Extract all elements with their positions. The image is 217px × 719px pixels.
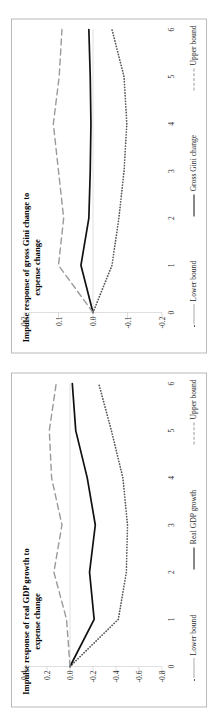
x-tick-label: 5 (167, 74, 176, 78)
y-tick-label: 0.2 (42, 670, 51, 680)
chart-gdp: Impulse response of real GDP growth to e… (0, 372, 217, 707)
x-tick-label: 5 (167, 428, 176, 432)
figure-panel: Impulse response of gross Gini change to… (0, 0, 217, 719)
x-tick-label: 3 (167, 523, 176, 527)
y-tick-label: -0.6 (134, 670, 143, 682)
series-line (70, 383, 128, 666)
legend-label: Lower bound (189, 260, 198, 301)
y-tick-label: 0.1 (54, 316, 63, 326)
legend-item: Gross Gini change (189, 134, 198, 216)
legend-dashed-line-icon (190, 68, 196, 90)
legend-solid-line-icon (190, 547, 196, 569)
chart-gini-frame: Impulse response of gross Gini change to… (11, 18, 207, 353)
x-tick-label: 4 (167, 475, 176, 479)
legend-item: Upper bound (189, 25, 198, 90)
legend-label: Gross Gini change (189, 134, 198, 191)
legend-label: Upper bound (189, 25, 198, 65)
x-tick-label: 3 (167, 169, 176, 173)
chart-gdp-legend: Lower boundReal GDP growthUpper bound (189, 379, 198, 680)
series-line (80, 29, 92, 312)
y-tick-label: -0.8 (157, 670, 166, 682)
y-tick-label: -0.1 (123, 316, 132, 328)
legend-dashed-line-icon (190, 422, 196, 444)
series-line (49, 383, 70, 666)
series-line (53, 29, 93, 312)
x-tick-label: 4 (167, 121, 176, 125)
y-tick-label: -0.2 (88, 670, 97, 682)
x-tick-label: 2 (167, 216, 176, 220)
x-tick-label: 0 (167, 664, 176, 668)
y-tick-label: 0.0 (65, 670, 74, 680)
chart-line-canvas (24, 29, 162, 312)
y-tick-label: -0.2 (157, 316, 166, 328)
x-tick-label: 2 (167, 570, 176, 574)
series-line (70, 383, 95, 666)
legend-item: Lower bound (189, 260, 198, 326)
y-tick-label: 0.0 (88, 316, 97, 326)
chart-gini: Impulse response of gross Gini change to… (0, 18, 217, 353)
chart-gini-legend: Lower boundGross Gini changeUpper bound (189, 25, 198, 326)
legend-dotted-line-icon (190, 658, 196, 680)
y-tick-label: 0.2 (19, 316, 28, 326)
legend-item: Lower bound (189, 614, 198, 680)
x-tick-label: 0 (167, 310, 176, 314)
legend-solid-line-icon (190, 194, 196, 216)
legend-label: Upper bound (189, 379, 198, 419)
chart-gdp-frame: Impulse response of real GDP growth to e… (11, 372, 207, 707)
series-line (93, 29, 127, 312)
chart-line-canvas (24, 383, 162, 666)
legend-item: Real GDP growth (189, 490, 198, 569)
chart-gdp-plot-area: 0.40.20.0-0.2-0.4-0.6-0.80123456 (24, 383, 162, 666)
legend-label: Real GDP growth (189, 490, 198, 544)
legend-item: Upper bound (189, 379, 198, 444)
y-tick-label: 0.4 (19, 670, 28, 680)
chart-gini-plot-area: 0.20.10.0-0.1-0.20123456 (24, 29, 162, 312)
y-tick-label: -0.4 (111, 670, 120, 682)
x-tick-label: 1 (167, 617, 176, 621)
x-tick-label: 6 (167, 381, 176, 385)
x-tick-label: 1 (167, 263, 176, 267)
legend-label: Lower bound (189, 614, 198, 655)
legend-dotted-line-icon (190, 304, 196, 326)
x-tick-label: 6 (167, 27, 176, 31)
